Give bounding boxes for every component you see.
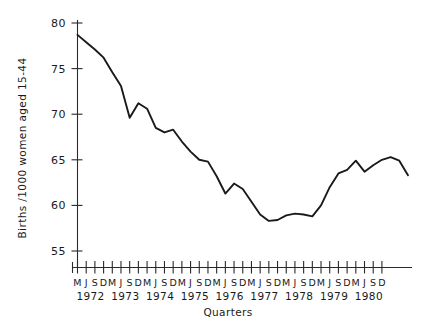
y-tick-label: 55 — [51, 245, 66, 258]
x-year-label: 1976 — [216, 290, 244, 302]
y-tick-label: 60 — [51, 199, 66, 212]
y-tick-label: 80 — [51, 17, 66, 30]
y-tick-label: 75 — [51, 63, 66, 76]
x-quarter-label: S — [231, 277, 237, 288]
x-quarter-label: J — [84, 277, 88, 288]
x-quarter-label: J — [118, 277, 122, 288]
x-quarter-label: J — [327, 277, 331, 288]
x-quarter-label: M — [352, 277, 360, 288]
y-tick-label: 70 — [51, 108, 66, 121]
births-rate-line — [78, 35, 409, 221]
x-quarter-label: M — [212, 277, 220, 288]
x-quarter-label: M — [108, 277, 116, 288]
x-quarter-label: S — [335, 277, 341, 288]
x-quarter-label: S — [127, 277, 133, 288]
x-quarter-label: M — [143, 277, 151, 288]
x-quarter-label: D — [343, 277, 351, 288]
x-quarter-label: J — [362, 277, 366, 288]
y-axis-title: Births /1000 women aged 15-44 — [16, 58, 28, 239]
x-quarter-label: S — [370, 277, 376, 288]
x-quarter-label: M — [317, 277, 325, 288]
x-axis-quarter-labels: MJSDMJSDMJSDMJSDMJSDMJSDMJSDMJSDMJSD — [73, 277, 385, 288]
x-quarter-label: M — [247, 277, 255, 288]
x-quarter-label: D — [204, 277, 212, 288]
x-quarter-label: J — [258, 277, 262, 288]
x-quarter-label: J — [153, 277, 157, 288]
x-quarter-label: S — [301, 277, 307, 288]
line-chart-svg: 556065707580 MJSDMJSDMJSDMJSDMJSDMJSDMJS… — [0, 0, 430, 332]
x-year-label: 1975 — [181, 290, 209, 302]
x-quarter-label: S — [161, 277, 167, 288]
x-year-label: 1980 — [355, 290, 383, 302]
x-year-label: 1978 — [285, 290, 313, 302]
x-quarter-label: M — [282, 277, 290, 288]
x-quarter-label: J — [188, 277, 192, 288]
x-quarter-label: D — [100, 277, 108, 288]
x-year-label: 1979 — [320, 290, 348, 302]
y-axis-tick-labels: 556065707580 — [51, 17, 66, 258]
x-quarter-label: D — [135, 277, 143, 288]
x-quarter-label: J — [292, 277, 296, 288]
x-quarter-label: S — [266, 277, 272, 288]
x-quarter-label: D — [378, 277, 386, 288]
x-quarter-label: M — [178, 277, 186, 288]
x-quarter-label: D — [309, 277, 317, 288]
x-quarter-label: D — [169, 277, 177, 288]
x-year-label: 1974 — [146, 290, 174, 302]
x-quarter-label: S — [196, 277, 202, 288]
x-quarter-label: M — [73, 277, 81, 288]
x-year-label: 1973 — [111, 290, 139, 302]
x-year-label: 1977 — [250, 290, 278, 302]
x-axis-title: Quarters — [203, 306, 252, 318]
x-quarter-label: D — [274, 277, 282, 288]
x-quarter-label: D — [239, 277, 247, 288]
y-tick-label: 65 — [51, 154, 66, 167]
x-quarter-label: J — [223, 277, 227, 288]
x-year-label: 1972 — [76, 290, 104, 302]
x-axis-year-labels: 197219731974197519761977197819791980 — [76, 290, 383, 302]
x-quarter-label: S — [92, 277, 98, 288]
chart-figure: 556065707580 MJSDMJSDMJSDMJSDMJSDMJSDMJS… — [0, 0, 430, 332]
